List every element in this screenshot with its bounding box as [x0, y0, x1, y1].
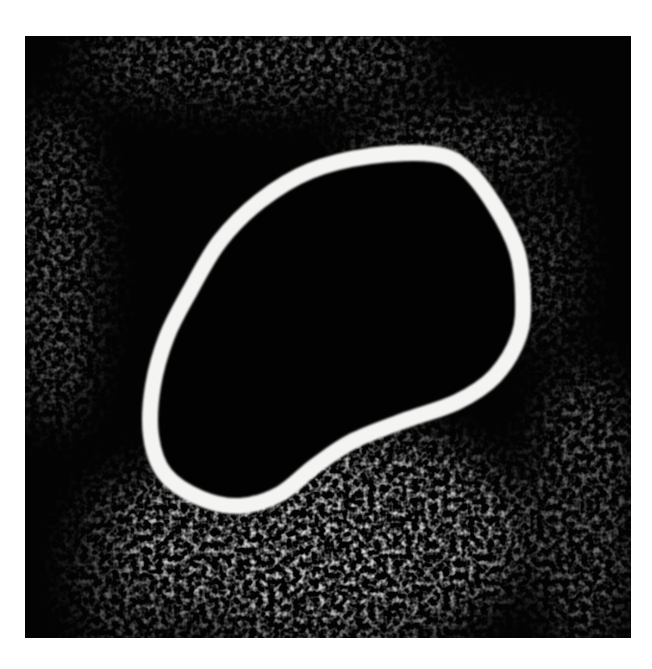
cell-fluorescence-canvas — [25, 36, 631, 638]
microscopy-image — [25, 36, 631, 638]
